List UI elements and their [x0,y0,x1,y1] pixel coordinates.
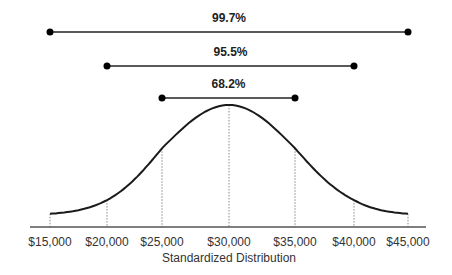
x-tick-label: $40,000 [332,235,376,249]
x-tick-label: $35,000 [273,235,317,249]
sigma-guide-lines [50,105,408,227]
x-tick-label: $15,000 [28,235,72,249]
x-axis-label: Standardized Distribution [162,251,296,265]
normal-distribution-chart: 99.7%95.5%68.2% $15,000$20,000$25,000$30… [0,0,452,275]
interval-endpoint [351,63,358,70]
interval-endpoint [47,29,54,36]
x-tick-label: $45,000 [386,235,430,249]
interval-endpoint [104,63,111,70]
x-tick-label: $30,000 [207,235,251,249]
interval-label: 99.7% [212,11,246,25]
interval-endpoint [405,29,412,36]
interval-bars: 99.7%95.5%68.2% [47,11,412,102]
x-tick-label: $25,000 [140,235,184,249]
interval-label: 68.2% [211,77,245,91]
interval-label: 95.5% [213,45,247,59]
x-axis-tick-labels: $15,000$20,000$25,000$30,000$35,000$40,0… [28,235,430,249]
interval-endpoint [159,95,166,102]
interval-endpoint [292,95,299,102]
x-tick-label: $20,000 [85,235,129,249]
